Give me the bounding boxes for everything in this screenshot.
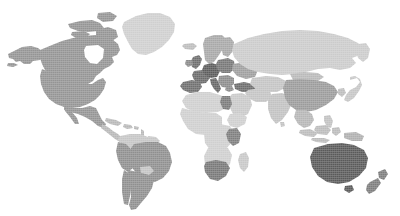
world-map [0,0,400,216]
world-map-container [0,0,400,216]
